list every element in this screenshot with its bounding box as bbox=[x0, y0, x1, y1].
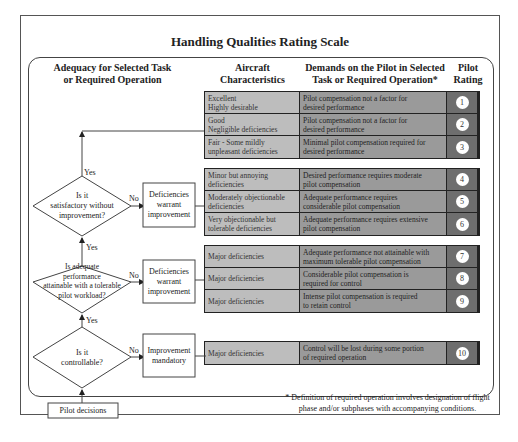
outcome-box-2: Deficiencies warrant improvement bbox=[143, 267, 195, 297]
yes-label-2: Yes bbox=[86, 243, 98, 252]
outcome-box-1: Deficiencies warrant improvement bbox=[143, 190, 195, 220]
decision-controllable: Is it controllable? bbox=[45, 348, 119, 368]
footnote: * Definition of required operation invol… bbox=[275, 392, 500, 414]
yes-label-1: Yes bbox=[84, 168, 96, 177]
no-label-3: No bbox=[129, 346, 139, 355]
no-label-1: No bbox=[129, 194, 139, 203]
pilot-decisions-box: Pilot decisions bbox=[48, 406, 118, 416]
decision-adequate: Is adequate performance attainable with … bbox=[33, 262, 131, 300]
decision-flowchart bbox=[0, 0, 518, 442]
outcome-box-3: Improvement mandatory bbox=[143, 346, 195, 366]
yes-label-3: Yes bbox=[86, 316, 98, 325]
no-label-2: No bbox=[129, 271, 139, 280]
decision-satisfactory: Is it satisfactory without improvement? bbox=[45, 191, 119, 221]
